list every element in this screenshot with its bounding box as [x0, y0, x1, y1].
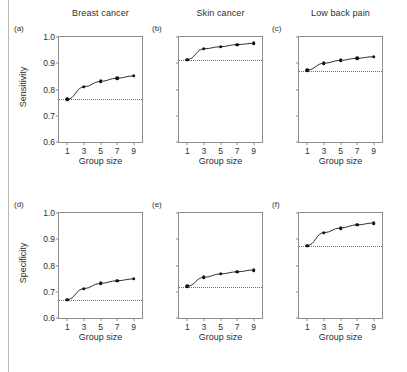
- y-axis-title-sensitivity: Sensitivity: [18, 57, 28, 117]
- x-tick-label: 1: [305, 322, 310, 332]
- plot-area-e: 13579Group size: [178, 212, 263, 319]
- x-tick-label: 9: [371, 322, 376, 332]
- data-point-marker: [235, 270, 239, 274]
- y-tick-label: 0.9: [43, 58, 55, 68]
- data-point-marker: [322, 231, 326, 235]
- x-tick-mark: [83, 318, 84, 321]
- data-point-marker: [219, 272, 223, 276]
- plot-area-f: 13579Group size: [298, 212, 383, 319]
- x-tick-label: 5: [98, 322, 103, 332]
- data-point-marker: [252, 268, 256, 272]
- x-tick-mark: [203, 142, 204, 145]
- x-tick-mark: [307, 318, 308, 321]
- x-tick-mark: [187, 318, 188, 321]
- plot-area-b: 13579Group size: [178, 36, 263, 143]
- x-tick-label: 7: [115, 146, 120, 156]
- data-point-marker: [355, 56, 359, 60]
- panel-a-tag: (a): [14, 24, 24, 33]
- x-tick-label: 9: [251, 146, 256, 156]
- data-point-marker: [235, 43, 239, 47]
- x-tick-label: 7: [355, 322, 360, 332]
- x-tick-mark: [253, 318, 254, 321]
- x-tick-label: 7: [115, 322, 120, 332]
- x-tick-mark: [117, 318, 118, 321]
- x-tick-mark: [357, 318, 358, 321]
- x-tick-mark: [307, 142, 308, 145]
- data-point-marker: [252, 42, 256, 46]
- y-tick-label: 1.0: [43, 32, 55, 42]
- plot-inner-f: 13579Group size: [299, 213, 382, 318]
- data-point-marker: [82, 85, 86, 89]
- x-tick-label: 5: [338, 322, 343, 332]
- x-tick-label: 7: [235, 322, 240, 332]
- y-tick-label: 0.6: [43, 313, 55, 323]
- x-tick-label: 1: [185, 146, 190, 156]
- x-tick-mark: [187, 142, 188, 145]
- x-tick-mark: [100, 318, 101, 321]
- data-point-marker: [306, 68, 310, 72]
- panel-d-tag: (d): [14, 200, 24, 209]
- x-axis-title: Group size: [179, 332, 262, 342]
- x-tick-label: 1: [65, 146, 70, 156]
- x-axis-title: Group size: [59, 156, 142, 166]
- x-tick-label: 3: [82, 322, 87, 332]
- x-tick-mark: [237, 142, 238, 145]
- data-point-marker: [322, 61, 326, 65]
- x-axis-title: Group size: [299, 332, 382, 342]
- y-tick-label: 0.6: [43, 137, 55, 147]
- data-point-marker: [186, 58, 190, 62]
- x-axis-title: Group size: [299, 156, 382, 166]
- x-axis-title: Group size: [179, 156, 262, 166]
- x-tick-mark: [323, 142, 324, 145]
- x-tick-mark: [253, 142, 254, 145]
- x-tick-label: 9: [371, 146, 376, 156]
- x-tick-mark: [357, 142, 358, 145]
- y-axis-title-specificity: Specificity: [18, 233, 28, 293]
- x-tick-mark: [203, 318, 204, 321]
- y-tick-label: 1.0: [43, 208, 55, 218]
- x-tick-mark: [373, 318, 374, 321]
- data-point-marker: [202, 47, 206, 51]
- data-point-marker: [99, 282, 103, 286]
- y-tick-label: 0.9: [43, 234, 55, 244]
- series-line: [179, 37, 262, 142]
- panel-b-title: Skin cancer: [178, 8, 263, 18]
- x-tick-label: 5: [218, 322, 223, 332]
- plot-inner-a: 0.60.70.80.91.013579Group size: [59, 37, 142, 142]
- x-tick-label: 3: [202, 322, 207, 332]
- data-point-marker: [355, 223, 359, 227]
- data-point-marker: [372, 55, 376, 59]
- series-line: [59, 213, 142, 318]
- y-tick-label: 0.8: [43, 261, 55, 271]
- x-tick-mark: [133, 142, 134, 145]
- x-tick-label: 7: [355, 146, 360, 156]
- x-tick-label: 5: [98, 146, 103, 156]
- data-point-marker: [66, 298, 70, 302]
- x-tick-label: 7: [235, 146, 240, 156]
- x-tick-mark: [340, 142, 341, 145]
- data-point-marker: [339, 59, 343, 63]
- x-tick-label: 5: [338, 146, 343, 156]
- data-point-marker: [202, 276, 206, 280]
- data-point-marker: [339, 226, 343, 230]
- x-tick-mark: [237, 318, 238, 321]
- series-line: [179, 213, 262, 318]
- x-tick-mark: [67, 142, 68, 145]
- plot-inner-b: 13579Group size: [179, 37, 262, 142]
- plot-inner-e: 13579Group size: [179, 213, 262, 318]
- data-point-marker: [115, 279, 119, 283]
- figure-panel-grid: Breast cancer (a) 0.60.70.80.91.013579Gr…: [0, 0, 407, 372]
- plot-inner-c: 13579Group size: [299, 37, 382, 142]
- panel-f-tag: (f): [272, 200, 280, 209]
- x-tick-label: 9: [131, 146, 136, 156]
- y-tick-label: 0.8: [43, 85, 55, 95]
- x-tick-label: 1: [65, 322, 70, 332]
- plot-area-d: 0.60.70.80.91.013579Group size: [58, 212, 143, 319]
- series-line: [59, 37, 142, 142]
- plot-area-a: 0.60.70.80.91.013579Group size: [58, 36, 143, 143]
- x-tick-label: 9: [251, 322, 256, 332]
- x-tick-mark: [340, 318, 341, 321]
- x-tick-label: 3: [322, 322, 327, 332]
- x-tick-mark: [323, 318, 324, 321]
- y-tick-label: 0.7: [43, 287, 55, 297]
